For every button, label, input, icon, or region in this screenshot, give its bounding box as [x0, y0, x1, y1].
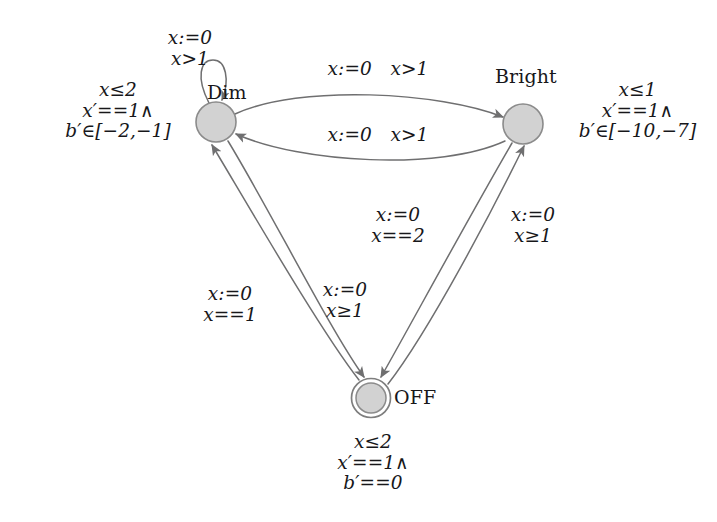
guard-dim-self-loop: x:=0 x>1 — [150, 28, 230, 69]
invariant-bright-line2: x′==1∧ — [560, 101, 715, 122]
guard-off-to-dim: x:=0 x==1 — [180, 284, 280, 325]
edge-bright-to-off — [381, 143, 512, 377]
invariant-off-line3: b′==0 — [298, 473, 448, 494]
state-node-dim[interactable] — [196, 102, 236, 142]
state-node-bright[interactable] — [503, 104, 543, 144]
guard-dim-to-off: x:=0 x≥1 — [300, 280, 390, 321]
guard-dim-to-off-line2: x≥1 — [300, 301, 390, 322]
guard-bright-to-off-line1: x:=0 — [352, 205, 444, 226]
state-label-dim: Dim — [207, 82, 247, 103]
invariant-bright-line1: x≤1 — [560, 80, 715, 101]
guard-off-to-dim-line1: x:=0 — [180, 284, 280, 305]
automaton-diagram: Dim Bright OFF x≤2 x′==1∧ b′∈[−2,−1] x≤1… — [0, 0, 717, 522]
edge-dim-to-bright — [235, 95, 503, 117]
guard-dim-to-off-line1: x:=0 — [300, 280, 390, 301]
invariant-dim-line1: x≤2 — [48, 80, 188, 101]
guard-off-to-bright: x:=0 x≥1 — [489, 205, 577, 246]
guard-bright-to-off-line2: x==2 — [352, 226, 444, 247]
guard-off-to-bright-line2: x≥1 — [489, 226, 577, 247]
invariant-bright: x≤1 x′==1∧ b′∈[−10,−7] — [560, 80, 715, 142]
state-label-bright: Bright — [495, 66, 557, 87]
guard-dim-self-loop-line2: x>1 — [150, 49, 230, 70]
guard-off-to-bright-line1: x:=0 — [489, 205, 577, 226]
guard-off-to-dim-line2: x==1 — [180, 305, 280, 326]
state-node-off[interactable] — [352, 379, 391, 418]
invariant-off: x≤2 x′==1∧ b′==0 — [298, 432, 448, 494]
edge-dim-to-off — [228, 141, 364, 377]
edge-off-to-bright — [388, 146, 524, 384]
guard-dim-to-bright: x:=0 x>1 — [288, 59, 468, 80]
edge-off-to-dim — [212, 145, 359, 380]
invariant-dim-line3: b′∈[−2,−1] — [48, 121, 188, 142]
guard-bright-to-dim: x:=0 x>1 — [288, 125, 468, 146]
guard-dim-self-loop-line1: x:=0 — [150, 28, 230, 49]
invariant-off-line1: x≤2 — [298, 432, 448, 453]
invariant-dim: x≤2 x′==1∧ b′∈[−2,−1] — [48, 80, 188, 142]
invariant-bright-line3: b′∈[−10,−7] — [560, 121, 715, 142]
invariant-off-line2: x′==1∧ — [298, 453, 448, 474]
guard-bright-to-off: x:=0 x==2 — [352, 205, 444, 246]
state-label-off: OFF — [394, 387, 436, 408]
invariant-dim-line2: x′==1∧ — [48, 101, 188, 122]
